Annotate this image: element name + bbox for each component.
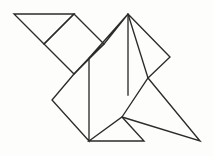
tangram-figure-container — [0, 0, 213, 156]
tangram-diagram — [0, 0, 213, 156]
tangram-pieces-group — [14, 14, 200, 141]
rotated-square-diamond — [44, 14, 104, 74]
right-large-triangle — [122, 78, 200, 141]
upper-left-triangle — [14, 14, 74, 44]
upper-right-triangle — [128, 14, 170, 78]
upper-middle-triangle — [89, 14, 128, 58]
